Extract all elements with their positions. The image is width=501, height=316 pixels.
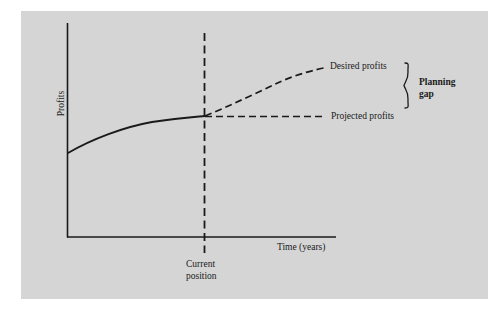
y-axis-label: Profits xyxy=(56,74,67,134)
projected-profits-label: Projected profits xyxy=(331,111,394,122)
current-position-label: Current position xyxy=(186,258,217,282)
desired-profits-label: Desired profits xyxy=(330,61,387,72)
x-axis-label: Time (years) xyxy=(277,242,325,253)
planning-gap-label: Planning gap xyxy=(419,76,455,100)
figure-panel xyxy=(21,11,488,299)
